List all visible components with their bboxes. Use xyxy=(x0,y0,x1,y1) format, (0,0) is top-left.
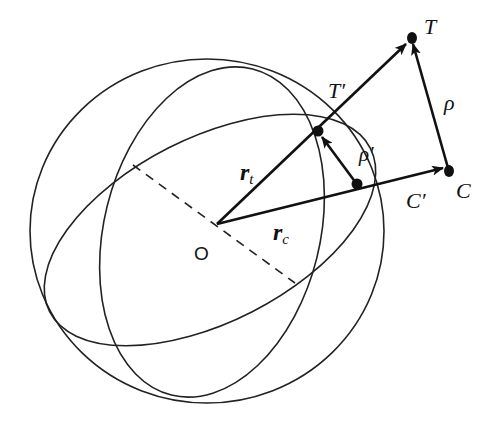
label-r-c: rc xyxy=(273,219,289,247)
tilted-great-circle xyxy=(8,66,412,393)
label-r-c-sub: c xyxy=(282,231,289,247)
vertical-great-circle xyxy=(67,43,358,421)
label-r-t: rt xyxy=(240,159,254,187)
sphere-outline xyxy=(30,59,384,403)
vector-rho-prime xyxy=(322,137,356,183)
label-rho-prime: ρ′ xyxy=(358,142,374,166)
label-C: C xyxy=(456,178,471,203)
point-T xyxy=(407,32,417,44)
label-origin: O xyxy=(194,243,209,264)
label-T: T xyxy=(424,14,438,39)
line-of-nodes xyxy=(133,165,295,283)
sphere-diagram: T T′ ρ ρ′ C C′ rt rc O xyxy=(0,0,498,425)
label-C-prime: C′ xyxy=(406,188,427,213)
point-T-prime xyxy=(313,126,324,137)
label-T-prime: T′ xyxy=(328,78,346,103)
point-C-prime xyxy=(352,179,363,190)
label-rho: ρ xyxy=(443,90,455,115)
vector-rho xyxy=(413,44,448,168)
vector-r-t xyxy=(217,44,406,224)
point-C xyxy=(444,165,454,177)
label-r-t-sub: t xyxy=(249,171,254,187)
